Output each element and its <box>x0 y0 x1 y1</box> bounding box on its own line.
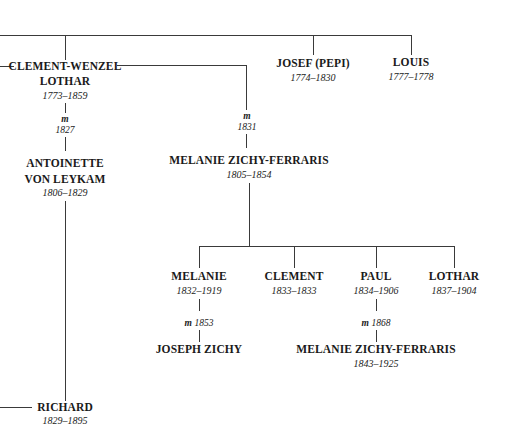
person-josef: JOSEF (PEPI) <box>276 56 349 70</box>
marriage-bar-1831 <box>117 65 247 66</box>
person-melanie-child: MELANIE <box>171 269 227 283</box>
connector-clement-child <box>294 246 295 268</box>
connector-josef <box>313 35 314 55</box>
marriage-drop-1853-top <box>199 299 200 311</box>
marriage-drop-1868-bottom <box>376 330 377 342</box>
marriage-1831-year: 1831 <box>238 121 257 133</box>
dates-melanie-child: 1832–1919 <box>177 285 222 297</box>
marriage-drop-1831-bottom <box>246 134 247 148</box>
connector-louis <box>411 35 412 55</box>
person-louis: LOUIS <box>393 55 429 69</box>
dates-antoinette: 1806–1829 <box>43 187 88 199</box>
marriage-1853: m 1853 <box>185 317 214 329</box>
person-clement-wenzel-line1: CLEMENT-WENZEL <box>9 59 122 73</box>
connector-lothar <box>454 246 455 268</box>
connector-clement <box>65 35 66 60</box>
person-clement-child: CLEMENT <box>265 269 324 283</box>
person-antoinette-line1: ANTOINETTE <box>26 156 103 170</box>
marriage-1827-year: 1827 <box>56 124 75 136</box>
person-melanie-zichy-ferraris-2: MELANIE ZICHY-FERRARIS <box>296 342 455 356</box>
dates-paul: 1834–1906 <box>354 285 399 297</box>
dates-lothar: 1837–1904 <box>432 285 477 297</box>
connector-paul <box>376 246 377 268</box>
person-paul: PAUL <box>361 269 392 283</box>
person-melanie-zichy-ferraris: MELANIE ZICHY-FERRARIS <box>169 153 328 167</box>
marriage-drop-1831-top <box>246 65 247 110</box>
dates-melanie-zichy-ferraris-2: 1843–1925 <box>354 358 399 370</box>
connector-richard-stub <box>0 407 32 408</box>
children-bar <box>199 246 455 247</box>
connector-children <box>249 183 250 246</box>
dates-josef: 1774–1830 <box>291 72 336 84</box>
person-lothar: LOTHAR <box>429 269 479 283</box>
dates-clement-child: 1833–1833 <box>272 285 317 297</box>
marriage-drop-1868-top <box>376 299 377 311</box>
dates-louis: 1777–1778 <box>389 71 434 83</box>
marriage-drop-1827-top <box>65 103 66 113</box>
marriage-drop-1827-bottom <box>65 137 66 151</box>
dates-clement-wenzel: 1773–1859 <box>43 90 88 102</box>
person-richard: RICHARD <box>37 400 93 414</box>
person-clement-wenzel-line2: LOTHAR <box>40 74 90 88</box>
dates-richard: 1829–1895 <box>43 415 88 427</box>
marriage-drop-1853-bottom <box>199 330 200 342</box>
dates-melanie-zichy-ferraris: 1805–1854 <box>227 169 272 181</box>
connector-antoinette-richard <box>65 201 66 401</box>
person-antoinette-line2: VON LEYKAM <box>25 172 106 186</box>
connector-melanie-child <box>199 246 200 268</box>
marriage-1868: m 1868 <box>362 317 391 329</box>
person-joseph-zichy: JOSEPH ZICHY <box>156 342 243 356</box>
sibling-bar <box>0 35 412 36</box>
